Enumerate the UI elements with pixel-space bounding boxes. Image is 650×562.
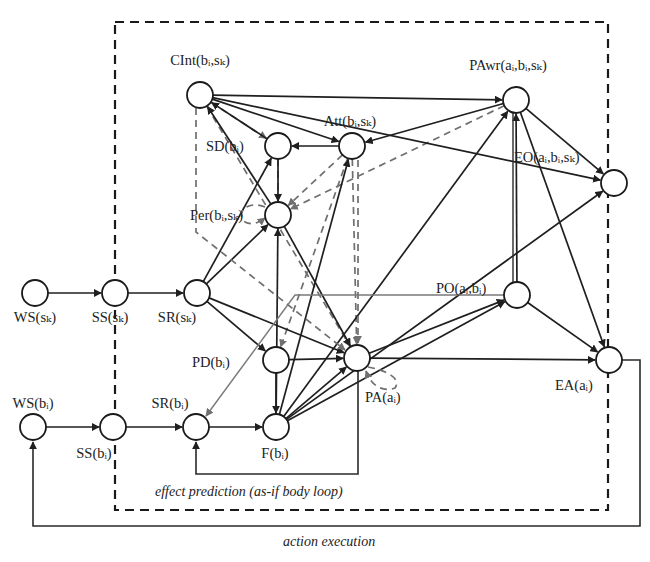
edge-po-to-ea [528,303,598,352]
per-self-loop [242,205,265,224]
node-label: Per(bᵢ,sₖ) [190,207,243,224]
node-label: SD(bᵢ) [206,138,244,155]
node-label: WS(bᵢ) [12,395,53,412]
node-srs: SR(sₖ) [158,280,210,326]
node-label: SR(bᵢ) [151,395,188,412]
edge-pawr-to-ea [520,112,604,347]
node-circle [503,87,529,113]
node-label: PO(aᵢ,bᵢ) [436,280,486,297]
node-circle [265,133,291,159]
node-circle [339,133,365,159]
node-circle [22,280,48,306]
node-circle [601,170,627,196]
node-label: EA(aᵢ) [555,377,593,394]
edge-pd-to-pa [289,358,343,359]
node-label: EO(aᵢ,bᵢ,sₖ) [514,149,580,166]
dashed-edge-att-to-pa [352,159,356,344]
edge-pa-to-po [369,300,504,353]
node-label: SS(bᵢ) [76,445,112,462]
solid-edges [46,95,604,427]
node-label: Att(bᵢ,sₖ) [324,113,377,130]
edge-fb-to-per [276,229,278,414]
node-circle [187,82,213,108]
node-circle [263,347,289,373]
node-sd: SD(bᵢ) [206,133,291,159]
node-circle [344,345,370,371]
pa-self-loop [366,367,397,389]
node-circle [102,280,128,306]
action-execution-loop [33,360,640,526]
node-att: Att(bᵢ,sₖ) [324,113,377,159]
node-circle [596,347,622,373]
node-wss: WS(sₖ) [14,280,57,326]
node-label: PA(aᵢ) [365,389,401,406]
node-ea: EA(aᵢ) [555,347,622,394]
node-circle [263,414,289,440]
edge-pawr-to-att [365,104,503,143]
node-label: WS(sₖ) [14,309,57,326]
node-ssb: SS(bᵢ) [76,414,126,462]
node-label: SS(sₖ) [92,309,129,326]
node-circle [265,202,291,228]
action-execution-caption: action execution [283,534,375,549]
node-circle [20,414,46,440]
node-label: F(bᵢ) [261,445,289,462]
node-label: PD(bᵢ) [192,354,230,371]
node-pawr: PAwr(aᵢ,bᵢ,sₖ) [469,57,547,113]
edge-fb-to-pawr [284,111,508,416]
node-label: SR(sₖ) [158,309,196,326]
node-label: PAwr(aᵢ,bᵢ,sₖ) [469,57,547,74]
node-fb: F(bᵢ) [261,414,289,462]
edge-srs-to-per [206,225,268,284]
node-per: Per(bᵢ,sₖ) [190,202,291,228]
effect-prediction-caption: effect prediction (as-if body loop) [155,484,343,500]
dashed-edge-att-to-pd [281,158,348,347]
edge-pa-to-ea [370,358,595,360]
nodes-layer: WS(sₖ)SS(sₖ)SR(sₖ)CInt(bᵢ,sₖ)SD(bᵢ)Att(b… [12,52,627,462]
node-circle [184,280,210,306]
node-circle [183,414,209,440]
node-circle [100,414,126,440]
node-eo: EO(aᵢ,bᵢ,sₖ) [514,149,627,196]
node-circle [504,282,530,308]
edge-po-to-pawr [516,114,517,282]
cognitive-agent-model-diagram: WS(sₖ)SS(sₖ)SR(sₖ)CInt(bᵢ,sₖ)SD(bᵢ)Att(b… [0,0,650,562]
node-wsb: WS(bᵢ) [12,395,53,440]
node-po: PO(aᵢ,bᵢ) [436,280,530,308]
node-label: CInt(bᵢ,sₖ) [170,52,230,69]
edge-cint-to-pawr [213,95,502,100]
node-sss: SS(sₖ) [92,280,129,326]
node-srb: SR(bᵢ) [151,395,209,440]
